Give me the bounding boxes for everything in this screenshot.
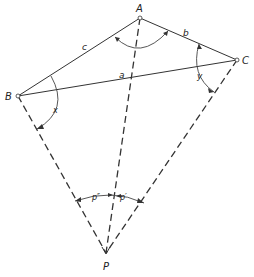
label-angle-p-double-prime: p″ bbox=[91, 193, 100, 202]
sight-line-pb bbox=[18, 96, 106, 253]
angle-arc-b bbox=[37, 76, 58, 129]
sight-line-pc bbox=[106, 60, 237, 253]
side-c bbox=[18, 18, 140, 96]
label-angle-x: x bbox=[52, 106, 58, 115]
label-side-b: b bbox=[183, 28, 189, 38]
arrowhead-icon bbox=[75, 197, 81, 202]
label-point-p: P bbox=[103, 261, 110, 272]
label-point-c: C bbox=[242, 55, 249, 66]
angle-arc-c bbox=[197, 44, 214, 92]
resection-diagram: A B C P c b a x y p″ p′ bbox=[0, 0, 254, 277]
label-angle-y: y bbox=[196, 71, 203, 81]
point-marker-b bbox=[16, 94, 20, 98]
side-a bbox=[18, 60, 237, 96]
label-side-a: a bbox=[119, 70, 125, 80]
angle-arc-a bbox=[115, 31, 168, 48]
arrowhead-icon bbox=[108, 193, 113, 197]
arrowhead-icon bbox=[208, 88, 214, 93]
label-side-c: c bbox=[82, 42, 87, 52]
sight-line-pa bbox=[106, 18, 140, 253]
point-marker-a bbox=[138, 16, 142, 20]
label-point-a: A bbox=[135, 3, 143, 14]
label-angle-p-prime: p′ bbox=[119, 193, 127, 202]
side-b bbox=[140, 18, 237, 60]
point-marker-c bbox=[235, 58, 239, 62]
label-point-b: B bbox=[5, 91, 12, 102]
